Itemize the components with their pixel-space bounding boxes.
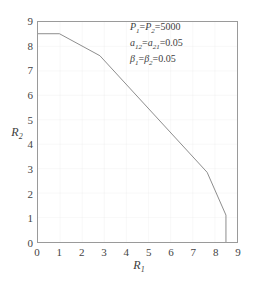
- ytick-5: 5: [28, 114, 34, 125]
- a12-subscript: 12: [135, 43, 142, 51]
- annotation-line-power: P1=P2=5000: [130, 20, 183, 36]
- xtick-6: 6: [168, 247, 174, 258]
- xtick-0: 0: [34, 247, 40, 258]
- xtick-7: 7: [191, 247, 197, 258]
- ytick-8: 8: [28, 40, 34, 51]
- xtick-2: 2: [79, 247, 85, 258]
- chart-figure: 0 1 2 3 4 5 6 7 8 9 0 1 2 3 4 5 6 7 8 9 …: [0, 0, 278, 290]
- ytick-3: 3: [28, 164, 34, 175]
- ytick-6: 6: [28, 90, 34, 101]
- ytick-4: 4: [28, 139, 34, 150]
- xtick-4: 4: [124, 247, 130, 258]
- ytick-9: 9: [28, 16, 34, 27]
- y-axis-title-sub: 2: [19, 132, 23, 141]
- x-axis-title-sub: 1: [141, 265, 145, 274]
- beta-value: 0.05: [158, 53, 176, 64]
- p-value: 5000: [161, 21, 181, 32]
- xtick-5: 5: [146, 247, 152, 258]
- a-value: 0.05: [165, 37, 183, 48]
- ytick-0: 0: [28, 238, 34, 249]
- xtick-8: 8: [213, 247, 219, 258]
- ytick-7: 7: [28, 65, 34, 76]
- ytick-2: 2: [28, 188, 34, 199]
- annotation-line-beta: β1=β2=0.05: [130, 52, 183, 68]
- xtick-3: 3: [101, 247, 107, 258]
- x-axis-title: R1: [133, 258, 144, 274]
- xtick-1: 1: [57, 247, 63, 258]
- annotation-line-cross-gain: a12=a21=0.05: [130, 36, 183, 52]
- y-axis-title: R2: [11, 125, 22, 141]
- a21-subscript: 21: [153, 43, 160, 51]
- parameter-annotation: P1=P2=5000 a12=a21=0.05 β1=β2=0.05: [130, 20, 183, 68]
- xtick-9: 9: [235, 247, 241, 258]
- ytick-1: 1: [28, 213, 34, 224]
